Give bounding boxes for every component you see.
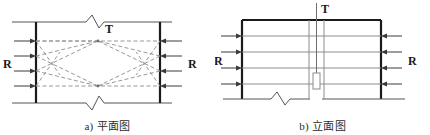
- break-symbol-bottom-icon: [271, 92, 293, 105]
- subfigure-plan-view: T R R a) 平面图: [0, 0, 215, 135]
- caption-elevation-view: b) 立面图: [215, 117, 430, 133]
- plan-right-reaction-arrows: [160, 39, 182, 89]
- caption-plan-view: a) 平面图: [0, 117, 215, 133]
- plan-view-drawing: T R R: [0, 0, 215, 118]
- elevation-label-T: T: [321, 2, 329, 16]
- elevation-left-reaction-arrows: [221, 34, 242, 87]
- subfigure-elevation-view: T R R b) 立面图: [215, 0, 430, 135]
- plan-label-R-left: R: [3, 57, 12, 71]
- plan-label-R-right: R: [188, 57, 197, 71]
- plan-apex-bottom-node: [97, 85, 100, 88]
- plan-left-reaction-arrows: [14, 39, 36, 89]
- plan-label-T: T: [105, 22, 113, 36]
- elevation-label-R-right: R: [408, 54, 417, 68]
- elevation-tie-column: [309, 3, 324, 99]
- plan-apex-top-node: [97, 40, 100, 43]
- plan-dashed-strut-network: [36, 41, 160, 86]
- elevation-anchor-element: [313, 73, 320, 89]
- elevation-bottom-boundary: [223, 92, 405, 105]
- elevation-label-R-left: R: [215, 54, 223, 68]
- elevation-view-drawing: T R R: [215, 0, 430, 118]
- elevation-course-lines: [242, 36, 381, 84]
- break-symbol-bottom-icon: [86, 96, 110, 110]
- elevation-right-reaction-arrows: [381, 34, 402, 87]
- figure-container: T R R a) 平面图: [0, 0, 430, 135]
